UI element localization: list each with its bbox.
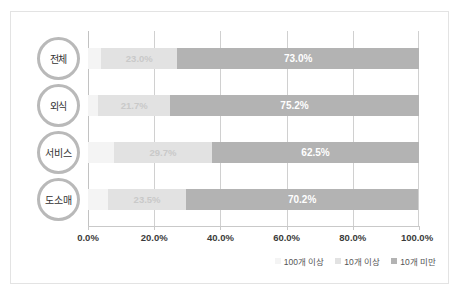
legend-item-100plus[interactable]: 100개 이상 [275,255,325,267]
chart-legend: 100개 이상 10개 이상 10개 미만 [275,255,436,267]
category-badge-1: 전체 [37,37,80,80]
legend-swatch-icon [391,258,397,264]
category-badge-4: 도소매 [37,178,80,221]
bar-segment-100plus[interactable]: 7.8% [88,142,114,163]
bar-segment-10plus[interactable]: 23.0% [101,48,177,69]
x-tick-label: 20.0% [141,232,168,243]
bar-segment-100plus[interactable]: 4.0% [88,48,101,69]
bar-label-10plus: 23.5% [108,195,186,205]
bar-segment-under10[interactable]: 70.2% [186,189,418,210]
legend-item-10plus[interactable]: 10개 이상 [335,255,380,267]
bar-label-under10: 75.2% [170,101,419,111]
x-tick [88,226,89,230]
legend-label: 10개 미만 [400,255,436,267]
x-tick [154,226,155,230]
x-tick [220,226,221,230]
category-badge-2: 외식 [37,84,80,127]
bar-segment-100plus[interactable]: 6.1% [88,189,108,210]
bar-label-under10: 62.5% [212,148,419,158]
category-label: 도소매 [45,192,71,207]
x-tick [353,226,354,230]
x-tick-label: 40.0% [207,232,234,243]
legend-swatch-icon [275,258,281,264]
bar-label-under10: 73.0% [177,54,419,64]
x-tick-label: 80.0% [339,232,366,243]
bar-segment-10plus[interactable]: 29.7% [114,142,212,163]
legend-swatch-icon [335,258,341,264]
bar-segment-under10[interactable]: 73.0% [177,48,419,69]
x-tick [419,226,420,230]
legend-label: 10개 이상 [344,255,380,267]
bar-segment-10plus[interactable]: 21.7% [98,95,170,116]
bar-row: 4.0% 23.0% 73.0% [88,48,419,69]
category-label: 전체 [50,51,67,66]
bar-label-under10: 70.2% [186,195,418,205]
bar-segment-10plus[interactable]: 23.5% [108,189,186,210]
legend-label: 100개 이상 [284,255,325,267]
category-label: 서비스 [45,145,71,160]
x-tick [287,226,288,230]
bar-row: 3.1% 21.7% 75.2% [88,95,419,116]
bar-row: 7.8% 29.7% 62.5% [88,142,419,163]
x-axis-line [88,226,420,227]
bar-row: 6.1% 23.5% 70.2% [88,189,419,210]
bar-label-10plus: 29.7% [114,148,212,158]
bar-segment-100plus[interactable]: 3.1% [88,95,98,116]
bar-label-10plus: 23.0% [101,54,177,64]
category-badge-3: 서비스 [37,131,80,174]
x-tick-label: 60.0% [273,232,300,243]
legend-item-under10[interactable]: 10개 미만 [391,255,436,267]
x-tick-label: 0.0% [77,232,99,243]
bar-label-10plus: 21.7% [98,101,170,111]
bar-segment-under10[interactable]: 75.2% [170,95,419,116]
bar-segment-under10[interactable]: 62.5% [212,142,419,163]
x-tick-label: 100.0% [401,232,433,243]
chart-frame: 4.0% 23.0% 73.0% 3.1% 21.7% 75.2% 7. [10,11,449,284]
plot-area: 4.0% 23.0% 73.0% 3.1% 21.7% 75.2% 7. [88,31,419,226]
category-label: 외식 [50,98,67,113]
